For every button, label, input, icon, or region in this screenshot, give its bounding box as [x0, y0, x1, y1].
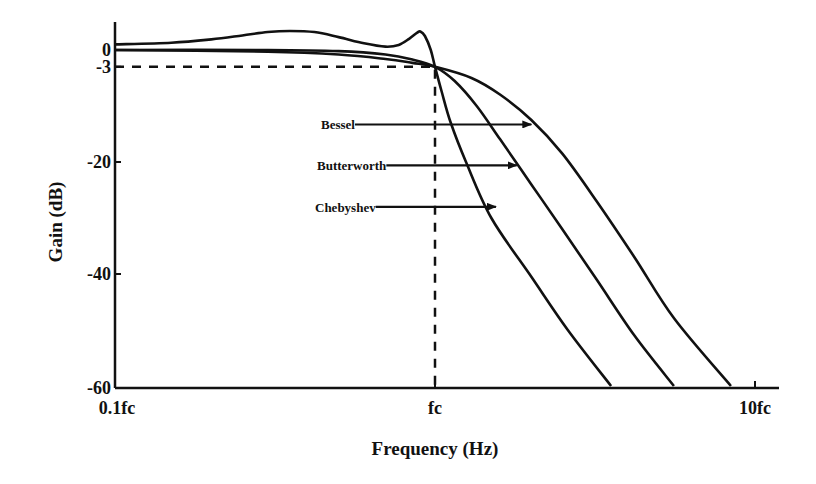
x-axis-title: Frequency (Hz)	[372, 438, 499, 460]
labels: Frequency (Hz) Gain (dB)	[45, 182, 498, 460]
annotations: BesselButterworthChebyshev	[315, 117, 531, 214]
y-tick-label: -20	[87, 152, 111, 172]
curve-butterworth	[115, 50, 674, 386]
reference-line-cutoff-3db	[115, 67, 435, 388]
y-axis-title: Gain (dB)	[45, 182, 67, 263]
curve-bessel	[115, 50, 731, 386]
x-tick-label: 10fc	[739, 398, 771, 418]
annotation-label-butterworth: Butterworth	[317, 158, 387, 173]
x-tick-label: 0.1fc	[99, 398, 135, 418]
annotation-label-bessel: Bessel	[321, 117, 355, 132]
y-tick-label: -3	[96, 57, 111, 77]
reference-lines	[115, 67, 435, 388]
curves	[115, 31, 731, 386]
y-tick-label: -60	[87, 378, 111, 398]
annotation-label-chebyshev: Chebyshev	[315, 200, 376, 215]
filter-response-chart: 0-3-20-40-600.1fcfc10fc BesselButterwort…	[0, 0, 816, 484]
x-tick-label: fc	[428, 398, 442, 418]
y-tick-label: -40	[87, 264, 111, 284]
axes: 0-3-20-40-600.1fcfc10fc	[87, 22, 779, 418]
